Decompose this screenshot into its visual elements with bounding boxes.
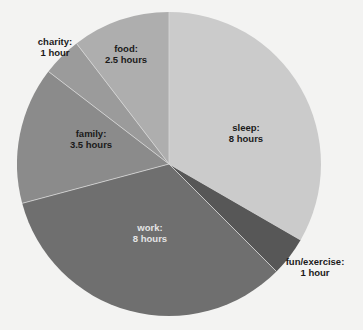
slice-label-sleep-name: sleep: (229, 122, 263, 133)
slice-label-food: food: 2.5 hours (105, 43, 147, 65)
slice-label-family: family: 3.5 hours (70, 128, 112, 150)
slice-label-fun-exercise: fun/exercise: 1 hour (286, 256, 345, 278)
slice-label-work-value: 8 hours (133, 233, 167, 244)
slice-label-work-name: work: (133, 222, 167, 233)
slice-label-sleep-value: 8 hours (229, 133, 263, 144)
slice-label-charity-name: charity: (38, 36, 72, 47)
slice-label-food-name: food: (105, 43, 147, 54)
pie-chart: sleep: 8 hours fun/exercise: 1 hour work… (0, 0, 363, 330)
slice-label-fun-exercise-value: 1 hour (286, 267, 345, 278)
slice-label-food-value: 2.5 hours (105, 54, 147, 65)
slice-label-family-value: 3.5 hours (70, 139, 112, 150)
slice-label-sleep: sleep: 8 hours (229, 122, 263, 144)
slice-label-family-name: family: (70, 128, 112, 139)
slice-label-charity: charity: 1 hour (38, 36, 72, 58)
slice-label-work: work: 8 hours (133, 222, 167, 244)
slice-label-fun-exercise-name: fun/exercise: (286, 256, 345, 267)
slice-label-charity-value: 1 hour (38, 47, 72, 58)
